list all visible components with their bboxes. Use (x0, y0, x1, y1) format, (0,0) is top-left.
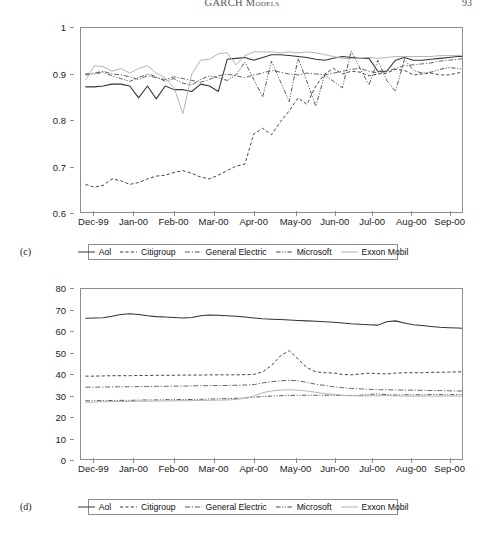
x-tick-mark (335, 211, 336, 216)
y-tick-mark (70, 417, 74, 418)
x-tick-label: Feb-00 (158, 216, 188, 227)
series-line (85, 390, 462, 403)
x-tick-mark (214, 211, 215, 216)
y-tick-label: 50 (55, 347, 66, 358)
plot-area-d (80, 288, 463, 460)
series-line (85, 68, 462, 187)
x-tick-label: Jul-00 (359, 463, 385, 474)
legend-line-swatch (120, 248, 137, 256)
x-tick-mark (411, 458, 412, 463)
x-tick-mark (133, 211, 134, 216)
figure-panel-d: 01020304050607080 Dec-99Jan-00Feb-00Mar-… (0, 275, 484, 537)
legend-item: Microsoft (276, 503, 332, 512)
y-tick-label: 0 (61, 455, 66, 466)
y-tick-label: 70 (55, 304, 66, 315)
x-tick-mark (93, 458, 94, 463)
x-tick-mark (254, 458, 255, 463)
legend-label: Aol (99, 248, 111, 257)
y-tick-label: 20 (55, 412, 66, 423)
legend-line-swatch (341, 248, 358, 256)
x-tick-mark (296, 211, 297, 216)
x-axis-c: Dec-99Jan-00Feb-00Mar-00Apr-00May-00Jun-… (80, 216, 463, 234)
legend-label: Citigroup (141, 248, 175, 257)
x-tick-mark (133, 458, 134, 463)
x-tick-label: May-00 (280, 216, 312, 227)
y-tick-label: 40 (55, 369, 66, 380)
legend-label: General Electric (206, 503, 267, 512)
legend-line-swatch (276, 503, 293, 511)
y-tick-label: 1 (61, 22, 66, 33)
x-tick-mark (411, 211, 412, 216)
x-tick-label: Dec-99 (78, 216, 109, 227)
legend-label: Microsoft (297, 503, 332, 512)
legend-d: AolCitigroupGeneral ElectricMicrosoftExx… (88, 499, 398, 515)
y-axis-d: 01020304050607080 (0, 288, 74, 460)
legend-line-swatch (185, 503, 202, 511)
x-tick-label: Jul-00 (359, 216, 385, 227)
x-tick-mark (214, 458, 215, 463)
legend-item: Exxon Mobil (341, 248, 409, 257)
x-tick-label: Sep-00 (434, 216, 465, 227)
series-line (85, 51, 462, 106)
x-tick-mark (296, 458, 297, 463)
x-tick-label: Apr-00 (239, 216, 268, 227)
line-chart-c (81, 28, 462, 212)
page: GARCH Models 93 0.60.70.80.91 Dec-99Jan-… (0, 0, 484, 543)
legend-line-swatch (341, 503, 358, 511)
y-tick-mark (70, 396, 74, 397)
legend-label: Exxon Mobil (362, 248, 409, 257)
legend-item: General Electric (185, 503, 267, 512)
legend-item: General Electric (185, 248, 267, 257)
legend-line-swatch (78, 248, 95, 256)
legend-label: Aol (99, 503, 111, 512)
x-tick-label: Apr-00 (239, 463, 268, 474)
x-tick-mark (372, 211, 373, 216)
y-tick-label: 30 (55, 390, 66, 401)
legend-line-swatch (185, 248, 202, 256)
x-tick-mark (335, 458, 336, 463)
y-tick-mark (70, 167, 74, 168)
y-tick-mark (70, 288, 74, 289)
running-head: GARCH Models 93 (0, 0, 484, 11)
y-axis-c: 0.60.70.80.91 (0, 27, 74, 213)
y-tick-label: 0.8 (53, 115, 66, 126)
y-tick-label: 10 (55, 433, 66, 444)
page-number: 93 (462, 0, 472, 8)
legend-line-swatch (276, 248, 293, 256)
legend-line-swatch (120, 503, 137, 511)
x-tick-label: Aug-00 (396, 463, 427, 474)
y-tick-mark (70, 353, 74, 354)
x-tick-label: Mar-00 (199, 463, 229, 474)
series-line (85, 380, 462, 391)
line-chart-d (81, 289, 462, 459)
panel-label-d: (d) (20, 501, 32, 512)
legend-item: Citigroup (120, 248, 175, 257)
x-tick-label: Aug-00 (396, 216, 427, 227)
x-tick-label: Jan-00 (119, 216, 148, 227)
y-tick-mark (70, 374, 74, 375)
legend-label: Citigroup (141, 503, 175, 512)
legend-c: AolCitigroupGeneral ElectricMicrosoftExx… (88, 244, 398, 260)
x-tick-mark (93, 211, 94, 216)
x-tick-label: Dec-99 (78, 463, 109, 474)
x-tick-mark (450, 211, 451, 216)
x-tick-mark (174, 211, 175, 216)
legend-label: Microsoft (297, 248, 332, 257)
legend-item: Citigroup (120, 503, 175, 512)
x-axis-d: Dec-99Jan-00Feb-00Mar-00Apr-00May-00Jun-… (80, 463, 463, 481)
y-tick-label: 60 (55, 326, 66, 337)
legend-line-swatch (78, 503, 95, 511)
series-line (85, 351, 462, 377)
x-tick-label: Jan-00 (119, 463, 148, 474)
x-tick-label: Jun-00 (320, 463, 349, 474)
legend-label: General Electric (206, 248, 267, 257)
legend-label: Exxon Mobil (362, 503, 409, 512)
x-tick-label: Jun-00 (320, 216, 349, 227)
y-tick-mark (70, 310, 74, 311)
x-tick-mark (372, 458, 373, 463)
y-tick-mark (70, 27, 74, 28)
y-tick-mark (70, 120, 74, 121)
x-tick-label: Sep-00 (434, 463, 465, 474)
figure-panel-c: 0.60.70.80.91 Dec-99Jan-00Feb-00Mar-00Ap… (0, 18, 484, 268)
y-tick-label: 80 (55, 283, 66, 294)
